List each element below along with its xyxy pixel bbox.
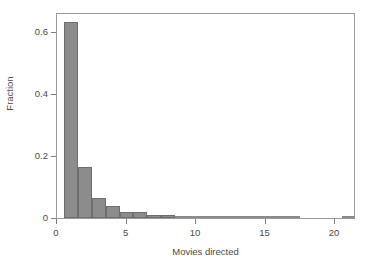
histogram-bar	[189, 216, 203, 218]
y-tick-mark	[51, 94, 56, 95]
y-tick-mark	[51, 156, 56, 157]
histogram-bar	[133, 212, 147, 218]
y-tick-label: 0.6	[35, 26, 48, 37]
x-axis-title: Movies directed	[56, 246, 355, 257]
x-tick-mark	[265, 219, 266, 224]
histogram-bar	[342, 216, 354, 218]
histogram-bar	[217, 216, 231, 218]
plot-frame	[56, 13, 355, 219]
x-axis: Movies directed 05101520	[0, 219, 368, 271]
x-tick-label: 0	[42, 227, 70, 238]
histogram-bar	[231, 216, 245, 218]
histogram-bar	[273, 216, 287, 218]
histogram-bar	[120, 212, 134, 218]
x-tick-label: 5	[112, 227, 140, 238]
plot-area	[57, 14, 354, 218]
histogram-figure: Fraction 00.20.40.6 Movies directed 0510…	[0, 0, 368, 271]
y-tick-label: 0.4	[35, 88, 48, 99]
histogram-bar	[161, 215, 175, 218]
histogram-bar	[92, 198, 106, 218]
x-tick-mark	[126, 219, 127, 224]
histogram-bar	[175, 216, 189, 218]
x-tick-mark	[195, 219, 196, 224]
histogram-bar	[286, 216, 300, 218]
y-axis-title: Fraction	[4, 64, 15, 124]
histogram-bar	[203, 216, 217, 218]
histogram-bar	[147, 215, 161, 218]
histogram-bar	[259, 216, 273, 218]
y-tick-label: 0.2	[35, 150, 48, 161]
histogram-bar	[64, 22, 78, 218]
x-tick-label: 10	[181, 227, 209, 238]
histogram-bar	[78, 167, 92, 218]
x-tick-mark	[56, 219, 57, 224]
histogram-bar	[245, 216, 259, 218]
y-tick-mark	[51, 32, 56, 33]
x-tick-label: 15	[251, 227, 279, 238]
x-tick-mark	[334, 219, 335, 224]
histogram-bar	[106, 206, 120, 218]
x-tick-label: 20	[320, 227, 348, 238]
